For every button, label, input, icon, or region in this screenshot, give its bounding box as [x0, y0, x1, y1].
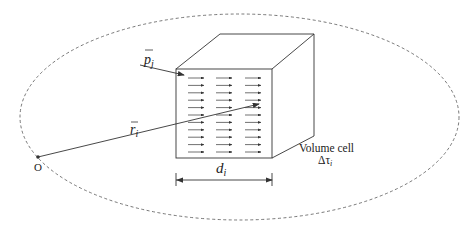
volume-cell-cube [176, 34, 314, 158]
cell-symbol-label: Δτi [318, 154, 332, 168]
position-vector-arrow [38, 104, 259, 157]
cube-side-face [272, 34, 314, 158]
origin-point [36, 155, 40, 159]
origin-label: O [34, 161, 42, 173]
position-label: ri [130, 122, 138, 139]
region-boundary [20, 14, 459, 220]
width-label: di [216, 160, 227, 178]
cube-top-face [176, 34, 314, 69]
diagram-canvas: pj ri O di Volume cell Δτi [0, 0, 473, 237]
dipole-arrow-grid [188, 78, 261, 152]
cell-name-label: Volume cell [299, 142, 354, 154]
dipole-label: pj [143, 52, 154, 69]
